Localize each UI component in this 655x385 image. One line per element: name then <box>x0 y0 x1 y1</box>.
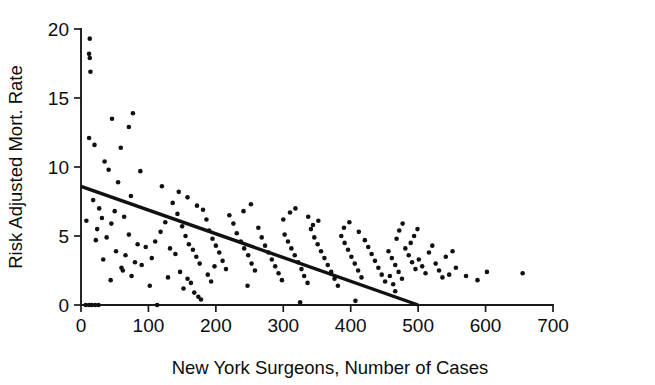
data-point <box>280 278 285 283</box>
data-point <box>464 274 469 279</box>
data-point <box>166 275 171 280</box>
scatter-plot-figure: 05101520 0100200300400500600700 New York… <box>0 0 655 385</box>
data-point <box>147 283 152 288</box>
data-point <box>400 276 405 281</box>
x-tick-label: 400 <box>335 315 367 336</box>
data-point <box>129 194 134 199</box>
data-point <box>127 125 132 130</box>
data-point <box>246 253 251 258</box>
data-point <box>427 250 432 255</box>
data-point <box>386 249 391 254</box>
data-point <box>347 220 352 225</box>
data-point <box>357 230 362 235</box>
data-point <box>175 212 180 217</box>
data-point <box>87 36 92 41</box>
data-point <box>84 219 89 224</box>
y-axis-label: Risk Adjusted Mort. Rate <box>5 65 26 269</box>
data-point <box>160 184 165 189</box>
y-tick-label: 20 <box>48 19 69 40</box>
data-point <box>298 300 303 305</box>
data-point <box>417 257 422 262</box>
data-point <box>168 246 173 251</box>
data-point <box>356 268 361 273</box>
data-point <box>413 267 418 272</box>
data-point <box>185 276 190 281</box>
data-point <box>420 264 425 269</box>
data-point <box>241 209 246 214</box>
data-point <box>122 214 127 219</box>
data-point <box>131 111 136 116</box>
data-point <box>391 282 396 287</box>
data-point <box>209 279 214 284</box>
data-point <box>309 227 314 232</box>
data-point <box>353 299 358 304</box>
data-point <box>187 242 192 247</box>
data-point <box>393 289 398 294</box>
data-point <box>129 274 134 279</box>
data-point <box>342 241 347 246</box>
data-point <box>406 253 411 258</box>
data-point <box>176 190 181 195</box>
data-point <box>253 268 258 273</box>
chart-canvas: 05101520 0100200300400500600700 New York… <box>0 0 655 385</box>
data-point <box>150 256 155 261</box>
data-point <box>112 209 117 214</box>
data-point <box>101 257 106 262</box>
data-point <box>123 253 128 258</box>
data-point <box>319 249 324 254</box>
data-point <box>390 256 395 261</box>
x-tick-label: 500 <box>402 315 434 336</box>
data-point <box>305 281 310 286</box>
x-tick-label: 100 <box>133 315 165 336</box>
data-point <box>397 228 402 233</box>
data-point <box>135 242 140 247</box>
data-point <box>104 235 109 240</box>
data-point <box>95 227 100 232</box>
data-point <box>97 206 102 211</box>
data-point <box>220 259 225 264</box>
data-point <box>394 236 399 241</box>
data-point <box>293 206 298 211</box>
data-point <box>234 231 239 236</box>
data-point <box>440 275 445 280</box>
data-point <box>212 264 217 269</box>
data-point <box>403 246 408 251</box>
data-point <box>191 248 196 253</box>
data-point <box>110 116 115 121</box>
data-point <box>447 272 452 277</box>
data-point <box>302 274 307 279</box>
data-point <box>292 253 297 258</box>
data-point <box>116 180 121 185</box>
data-point <box>173 252 178 257</box>
data-point <box>270 257 275 262</box>
data-point <box>408 241 413 246</box>
data-point <box>100 216 105 221</box>
data-point <box>415 227 420 232</box>
y-tick-label: 10 <box>48 157 69 178</box>
data-point <box>87 56 92 61</box>
data-point <box>96 303 101 308</box>
data-point <box>450 249 455 254</box>
x-axis-label: New York Surgeons, Number of Cases <box>172 357 489 378</box>
data-point <box>410 260 415 265</box>
data-point <box>306 214 311 219</box>
data-point <box>286 239 291 244</box>
data-point <box>383 279 388 284</box>
data-point <box>185 195 190 200</box>
data-point <box>189 281 194 286</box>
data-point <box>242 246 247 251</box>
data-point <box>87 136 92 141</box>
data-point <box>88 69 93 74</box>
data-point <box>299 267 304 272</box>
data-point <box>312 235 317 240</box>
data-point <box>121 268 126 273</box>
data-point <box>475 278 480 283</box>
data-point <box>437 268 442 273</box>
data-point <box>194 254 199 259</box>
data-point <box>195 203 200 208</box>
data-point <box>109 221 114 226</box>
data-point <box>400 221 405 226</box>
data-point <box>138 169 143 174</box>
data-point <box>210 236 215 241</box>
data-point <box>249 202 254 207</box>
